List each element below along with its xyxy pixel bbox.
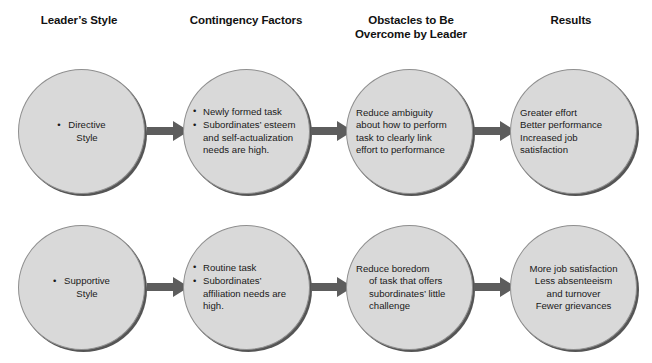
- node-line-2: Style: [68, 132, 105, 144]
- node-line: Fewer grievances: [520, 300, 627, 312]
- node-line: and turnover: [520, 288, 627, 300]
- node-line: Reduce boredom: [356, 263, 463, 275]
- node-results-1[interactable]: Greater effort Better performance Increa…: [510, 69, 637, 194]
- bullet-list: Newly formed task Subordinates’ esteem a…: [193, 106, 300, 157]
- node-text-block: Supportive Style: [53, 275, 110, 300]
- node-line: Greater effort: [520, 107, 627, 119]
- node-contingency-1[interactable]: Newly formed task Subordinates’ esteem a…: [183, 69, 310, 194]
- node-line-indented: challenge: [356, 300, 463, 312]
- node-directive-style[interactable]: Directive Style: [18, 69, 145, 194]
- column-header-obstacles: Obstacles to Be Overcome by Leader: [336, 14, 486, 41]
- node-text-block: Directive Style: [57, 119, 105, 144]
- list-item: Newly formed task: [193, 106, 300, 118]
- column-header-contingency-factors: Contingency Factors: [172, 14, 320, 28]
- node-line-indented: subordinates’ little: [356, 288, 463, 300]
- node-line: effort to performance: [356, 144, 463, 156]
- node-line: Increased job satisfaction: [520, 132, 627, 157]
- node-line: More job satisfaction: [520, 263, 627, 275]
- node-supportive-style[interactable]: Supportive Style: [18, 225, 145, 350]
- node-obstacles-2[interactable]: Reduce boredom of task that offers subor…: [346, 225, 473, 350]
- node-obstacles-1[interactable]: Reduce ambiguity about how to perform ta…: [346, 69, 473, 194]
- diagram-canvas: Leader’s Style Contingency Factors Obsta…: [0, 0, 652, 363]
- node-contingency-2[interactable]: Routine task Subordinates’ affiliation n…: [183, 225, 310, 350]
- node-line: task to clearly link: [356, 132, 463, 144]
- node-line: Less absenteeism: [520, 275, 627, 287]
- node-line: Better performance: [520, 119, 627, 131]
- column-header-results: Results: [500, 14, 642, 28]
- bullet-list: Routine task Subordinates’ affiliation n…: [193, 262, 300, 313]
- node-line-1: Directive: [68, 119, 105, 130]
- node-line: about how to perform: [356, 119, 463, 131]
- node-line-indented: of task that offers: [356, 275, 463, 287]
- node-line: Reduce ambiguity: [356, 107, 463, 119]
- node-line-1: Supportive: [64, 275, 110, 286]
- list-item: Subordinates’ affiliation needs are high…: [193, 275, 300, 312]
- list-item: Routine task: [193, 262, 300, 274]
- node-line-2: Style: [64, 288, 110, 300]
- node-text-block: Reduce boredom of task that offers subor…: [356, 263, 463, 313]
- node-results-2[interactable]: More job satisfaction Less absenteeism a…: [510, 225, 637, 350]
- column-header-leaders-style: Leader’s Style: [9, 14, 149, 28]
- list-item: Subordinates’ esteem and self-actualizat…: [193, 119, 300, 156]
